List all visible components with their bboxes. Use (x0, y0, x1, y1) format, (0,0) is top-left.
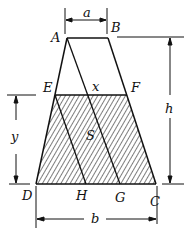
point-label-b: B (110, 20, 121, 35)
point-label-a: A (50, 30, 60, 45)
point-label-c: C (150, 194, 160, 209)
trapezoid-diagram: a A B E x F h y S D H G C b (0, 0, 186, 244)
point-label-d: D (21, 188, 33, 203)
label-a: a (83, 5, 91, 20)
label-x: x (92, 79, 100, 94)
point-label-e: E (42, 80, 53, 95)
label-b: b (91, 211, 99, 226)
point-label-h: H (75, 188, 88, 203)
point-label-g: G (115, 190, 125, 205)
label-s: S (86, 128, 95, 143)
label-h: h (165, 101, 173, 116)
point-label-f: F (130, 80, 141, 95)
shaded-region-s (36, 95, 156, 184)
label-y: y (10, 129, 19, 144)
